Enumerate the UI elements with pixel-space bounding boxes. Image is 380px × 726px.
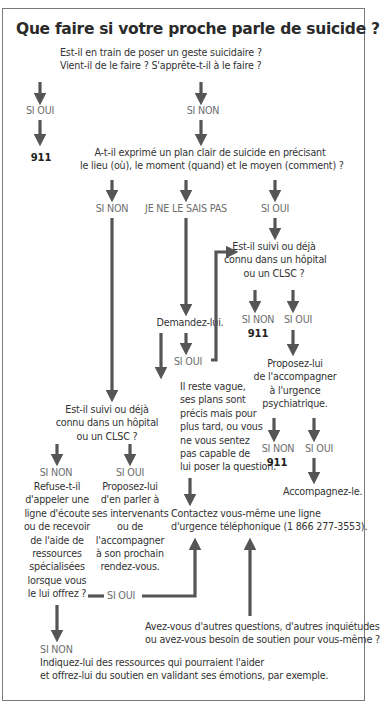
arrow-elbow-up-icon [142,544,195,596]
arrow-elbow-right-icon [211,252,232,360]
